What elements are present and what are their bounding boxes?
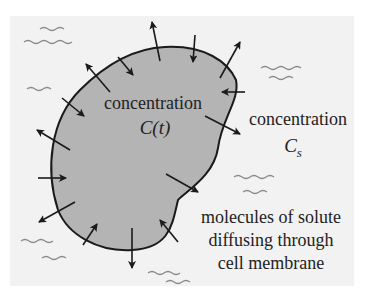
caption-line-2: diffusing through: [208, 230, 333, 250]
diagram-canvas: concentration C(t) concentration Cs mole…: [0, 0, 374, 298]
caption-line-3: cell membrane: [218, 253, 324, 273]
outside-concentration-label: concentration: [249, 109, 347, 129]
diffusion-diagram: concentration C(t) concentration Cs mole…: [0, 0, 374, 298]
cell-concentration-label: concentration: [104, 93, 202, 113]
caption-line-1: molecules of solute: [201, 207, 341, 227]
cell-concentration-symbol: C(t): [140, 117, 171, 139]
